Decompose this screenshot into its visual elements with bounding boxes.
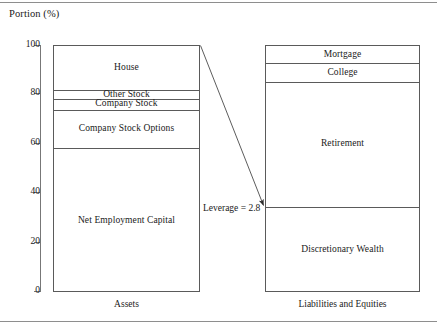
y-tick-60: 60 <box>0 143 40 144</box>
y-tick-80: 80 <box>0 93 40 94</box>
y-tick-label-80: 80 <box>12 88 40 98</box>
segment-retirement: Retirement <box>266 82 419 207</box>
segment-label-college: College <box>327 68 357 78</box>
y-tick-20: 20 <box>0 242 40 243</box>
segment-label-mortgage: Mortgage <box>324 50 362 60</box>
category-label-liabilities-equities: Liabilities and Equities <box>265 299 420 309</box>
y-tick-label-0: 0 <box>12 286 40 296</box>
bar-assets: House Other Stock Company Stock Company … <box>53 45 200 292</box>
segment-company-stock: Company Stock <box>54 99 199 110</box>
y-axis-line <box>40 45 41 292</box>
segment-house: House <box>54 46 199 90</box>
segment-mortgage: Mortgage <box>266 46 419 63</box>
plot-area: 0 20 40 60 80 100 House <box>0 0 437 330</box>
segment-label-retirement: Retirement <box>321 139 364 149</box>
y-tick-label-100: 100 <box>12 40 40 50</box>
segment-label-discretionary-wealth: Discretionary Wealth <box>301 245 384 255</box>
y-tick-40: 40 <box>0 192 40 193</box>
stacked-bar-figure: Portion (%) 0 20 40 60 80 100 <box>0 0 437 330</box>
segment-label-house: House <box>114 63 139 73</box>
y-tick-label-60: 60 <box>12 138 40 148</box>
y-tick-0: 0 <box>0 291 40 292</box>
segment-net-employment-capital: Net Employment Capital <box>54 148 199 293</box>
segment-discretionary-wealth: Discretionary Wealth <box>266 207 419 294</box>
bar-liabilities-equities: Mortgage College Retirement Discretionar… <box>265 45 420 292</box>
y-tick-100: 100 <box>0 45 40 46</box>
segment-company-stock-options: Company Stock Options <box>54 110 199 148</box>
y-tick-label-20: 20 <box>12 237 40 247</box>
segment-label-company-stock: Company Stock <box>95 99 157 109</box>
category-label-assets: Assets <box>53 299 200 309</box>
segment-college: College <box>266 63 419 82</box>
y-tick-label-40: 40 <box>12 187 40 197</box>
segment-label-company-stock-options: Company Stock Options <box>79 124 175 134</box>
segment-label-net-employment-capital: Net Employment Capital <box>78 216 175 226</box>
leverage-annotation-label: Leverage = 2.8 <box>203 203 260 213</box>
